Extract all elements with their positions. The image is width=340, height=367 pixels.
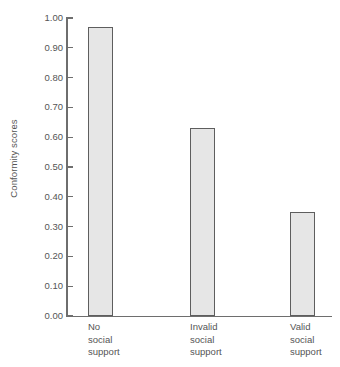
x-axis-category-label-line: social: [190, 334, 222, 347]
y-axis-tick-label: 0.10: [31, 281, 63, 291]
bar-chart-figure: Conformity scores 0.000.100.200.300.400.…: [0, 0, 340, 367]
y-axis-tick-label: 0.80: [31, 73, 63, 83]
y-axis-tick: [67, 47, 73, 48]
y-axis-tick: [67, 226, 73, 227]
x-axis-category-label-line: social: [290, 334, 322, 347]
x-axis-category-label-line: support: [290, 346, 322, 359]
y-axis-tick: [67, 17, 73, 18]
x-axis-category-label-line: social: [88, 334, 120, 347]
y-axis-tick: [67, 137, 73, 138]
bar: [190, 128, 215, 316]
y-axis-tick: [67, 77, 73, 78]
y-axis-tick: [67, 315, 73, 316]
x-axis-category-label-line: No: [88, 321, 120, 334]
y-axis-tick: [67, 107, 73, 108]
x-axis-category-label-line: Invalid: [190, 321, 222, 334]
y-axis-tick: [67, 166, 73, 167]
y-axis-title: Conformity scores: [0, 0, 26, 316]
x-axis-category-label: Nosocialsupport: [88, 321, 120, 359]
y-axis-tick: [67, 286, 73, 287]
y-axis-tick-label: 0.20: [31, 252, 63, 262]
y-axis-tick-label: 0.60: [31, 132, 63, 142]
bar: [290, 212, 315, 316]
y-axis-tick: [67, 196, 73, 197]
y-axis-tick-labels: 0.000.100.200.300.400.500.600.700.800.90…: [28, 0, 63, 367]
x-axis-category-label-line: support: [88, 346, 120, 359]
y-axis-tick-label: 0.70: [31, 103, 63, 113]
y-axis-tick-label: 0.00: [31, 311, 63, 321]
y-axis-tick-label: 0.30: [31, 222, 63, 232]
y-axis-tick-label: 0.50: [31, 162, 63, 172]
y-axis-title-text: Conformity scores: [8, 119, 19, 197]
x-axis-category-label: Invalidsocialsupport: [190, 321, 222, 359]
x-axis-category-label-line: support: [190, 346, 222, 359]
x-axis-category-label-line: Valid: [290, 321, 322, 334]
y-axis-tick-label: 0.90: [31, 43, 63, 53]
x-axis-category-label: Validsocialsupport: [290, 321, 322, 359]
y-axis-tick: [67, 256, 73, 257]
bar: [88, 27, 113, 316]
y-axis-tick-label: 0.40: [31, 192, 63, 202]
y-axis-tick-label: 1.00: [31, 13, 63, 23]
